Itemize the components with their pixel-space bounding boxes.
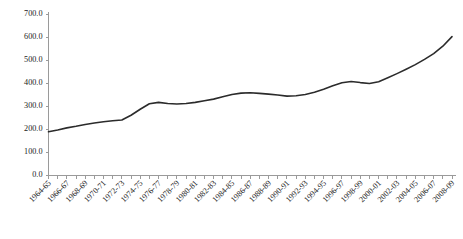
y-tick-label: 300.0 <box>24 101 42 110</box>
chart-canvas: 0.0100.0200.0300.0400.0500.0600.0700.0 1… <box>0 0 463 239</box>
data-series-line <box>49 37 453 132</box>
x-tick-labels: 1964-651966-671968-691970-711972-731974-… <box>27 179 456 205</box>
y-axis: 0.0100.0200.0300.0400.0500.0600.0700.0 <box>24 9 48 179</box>
y-tick-label: 0.0 <box>32 170 42 179</box>
y-tick-label: 200.0 <box>24 124 42 133</box>
y-tick-label: 100.0 <box>24 147 42 156</box>
y-tick-label: 500.0 <box>24 55 42 64</box>
line-chart: 0.0100.0200.0300.0400.0500.0600.0700.0 1… <box>0 0 463 239</box>
y-tick-label: 700.0 <box>24 9 42 18</box>
y-tick-label: 600.0 <box>24 32 42 41</box>
y-tick-label: 400.0 <box>24 78 42 87</box>
x-axis: 1964-651966-671968-691970-711972-731974-… <box>27 176 456 205</box>
y-tick-labels: 0.0100.0200.0300.0400.0500.0600.0700.0 <box>24 9 42 179</box>
